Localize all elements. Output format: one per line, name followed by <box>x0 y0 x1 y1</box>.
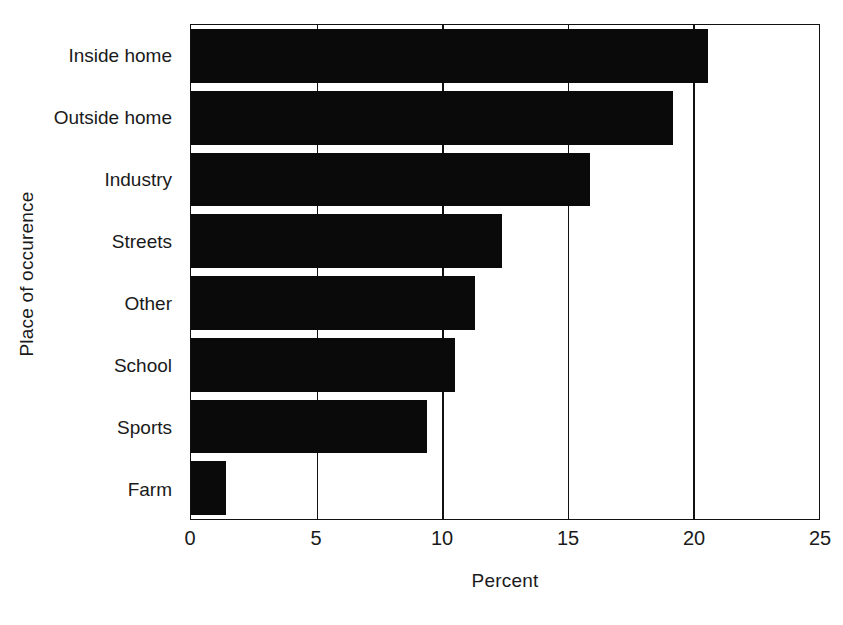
x-axis-tick-labels: 0510152025 <box>190 528 820 558</box>
category-label: Farm <box>44 458 182 520</box>
bar-slot <box>191 210 819 272</box>
bar-other <box>191 276 475 330</box>
bar-slot <box>191 149 819 211</box>
category-label: Industry <box>44 148 182 210</box>
x-tick-label: 5 <box>310 528 321 548</box>
category-label: School <box>44 334 182 396</box>
bar-slot <box>191 25 819 87</box>
category-label: Other <box>44 272 182 334</box>
x-tick-label: 25 <box>809 528 831 548</box>
plot-area <box>190 24 820 520</box>
bar-industry <box>191 153 590 207</box>
x-tick-label: 20 <box>683 528 705 548</box>
bar-series <box>191 25 819 519</box>
bar-chart: Place of occurence Inside home Outside h… <box>0 0 843 625</box>
x-tick-label: 15 <box>557 528 579 548</box>
bar-farm <box>191 461 226 515</box>
bar-slot <box>191 87 819 149</box>
x-tick-label: 0 <box>184 528 195 548</box>
bar-slot <box>191 457 819 519</box>
y-axis-title: Place of occurence <box>10 24 44 524</box>
bar-outside-home <box>191 91 673 145</box>
x-axis-title: Percent <box>190 570 820 592</box>
category-label: Inside home <box>44 24 182 86</box>
bar-slot <box>191 396 819 458</box>
bar-slot <box>191 272 819 334</box>
category-label: Sports <box>44 396 182 458</box>
bar-sports <box>191 400 427 454</box>
category-label-list: Inside home Outside home Industry Street… <box>44 24 182 520</box>
category-label: Outside home <box>44 86 182 148</box>
bar-streets <box>191 214 502 268</box>
bar-inside-home <box>191 29 708 83</box>
x-tick-label: 10 <box>431 528 453 548</box>
bar-school <box>191 338 455 392</box>
category-label: Streets <box>44 210 182 272</box>
bar-slot <box>191 334 819 396</box>
